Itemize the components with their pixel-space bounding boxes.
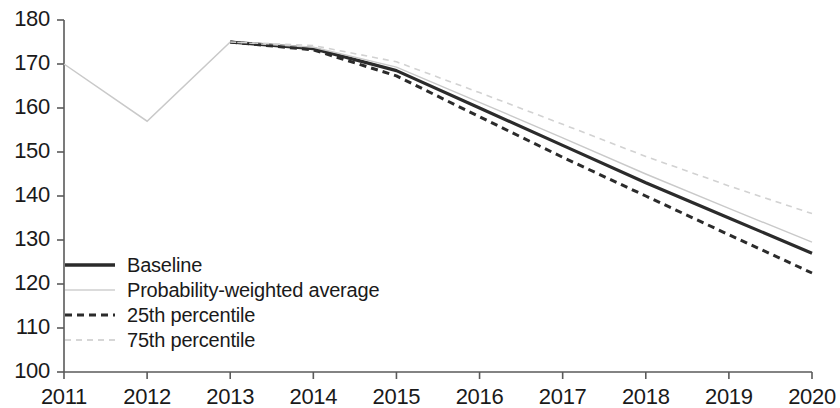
series-line-probability-weighted-average <box>230 42 812 242</box>
y-tick-label: 160 <box>0 96 50 118</box>
y-tick-label: 150 <box>0 140 50 162</box>
x-tick-label: 2013 <box>190 386 270 408</box>
legend-item-baseline: Baseline <box>64 252 379 277</box>
y-tick-label: 120 <box>0 272 50 294</box>
y-tick-label: 140 <box>0 184 50 206</box>
x-tick-label: 2020 <box>772 386 840 408</box>
legend-label-probability-weighted-average: Probability-weighted average <box>127 280 379 300</box>
x-tick-label: 2017 <box>523 386 603 408</box>
legend-item-25th-percentile: 25th percentile <box>64 302 379 327</box>
x-tick-label: 2019 <box>689 386 769 408</box>
legend-label-75th-percentile: 75th percentile <box>127 330 255 350</box>
series-line-baseline <box>230 42 812 253</box>
dashed-light-line-icon <box>64 333 116 347</box>
y-tick-label: 130 <box>0 228 50 250</box>
x-tick-label: 2014 <box>273 386 353 408</box>
y-tick-label: 110 <box>0 316 50 338</box>
x-tick-label: 2015 <box>356 386 436 408</box>
y-tick-label: 180 <box>0 8 50 30</box>
legend-label-baseline: Baseline <box>127 255 202 275</box>
x-tick-label: 2018 <box>606 386 686 408</box>
solid-dark-line-icon <box>64 258 116 272</box>
y-tick-marks <box>57 20 64 372</box>
chart-legend: Baseline Probability-weighted average 25… <box>64 252 379 352</box>
x-tick-marks <box>64 372 812 379</box>
x-tick-label: 2016 <box>440 386 520 408</box>
historical-line <box>64 42 230 121</box>
data-series-group <box>64 42 812 273</box>
solid-light-line-icon <box>64 283 116 297</box>
y-tick-label: 170 <box>0 52 50 74</box>
x-tick-label: 2011 <box>24 386 104 408</box>
dashed-dark-line-icon <box>64 308 116 322</box>
x-tick-label: 2012 <box>107 386 187 408</box>
series-line-25th-percentile <box>230 42 812 273</box>
legend-label-25th-percentile: 25th percentile <box>127 305 255 325</box>
legend-item-probability-weighted-average: Probability-weighted average <box>64 277 379 302</box>
legend-item-75th-percentile: 75th percentile <box>64 327 379 352</box>
y-tick-label: 100 <box>0 360 50 382</box>
